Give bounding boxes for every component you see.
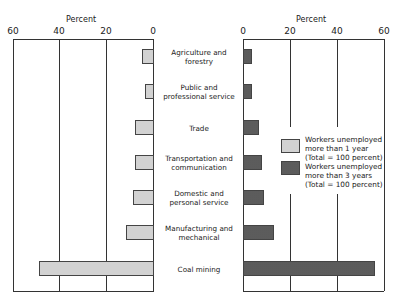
category-label-coal-mining: Coal mining (158, 265, 240, 274)
left-gridline-20 (106, 39, 107, 291)
bar-3yr-trade (243, 120, 259, 135)
bar-1yr-coal-mining (39, 261, 154, 276)
category-label-line: Coal mining (158, 265, 240, 274)
right-tick-0: 0 (240, 26, 246, 36)
right-tick-20: 20 (284, 26, 295, 36)
category-label-agriculture: Agriculture and forestry (158, 48, 240, 66)
legend-line: Workers unemployed (305, 162, 383, 171)
bar-1yr-public-and-professional-service (145, 84, 154, 99)
category-label-line: Public and (158, 83, 240, 92)
bar-1yr-trade (135, 120, 154, 135)
category-label-line: personal service (158, 198, 240, 207)
category-label-trade: Trade (158, 124, 240, 133)
category-label-public-service: Public and professional service (158, 83, 240, 101)
category-label-line: Agriculture and (158, 48, 240, 57)
category-label-manufacturing: Manufacturing and mechanical (158, 224, 240, 242)
legend-label-3yr: Workers unemployed more than 3 years (To… (305, 162, 383, 189)
right-tick-40: 40 (331, 26, 342, 36)
legend-swatch-1yr (281, 139, 300, 153)
legend-line: more than 1 year (305, 144, 383, 153)
left-tick-0: 0 (150, 26, 156, 36)
right-tick-60: 60 (378, 26, 389, 36)
legend-line: (Total = 100 percent) (305, 180, 383, 189)
bar-3yr-transportation-and-communication (243, 155, 262, 170)
bar-3yr-coal-mining (243, 261, 375, 276)
category-label-line: Trade (158, 124, 240, 133)
left-tick-20: 20 (100, 26, 111, 36)
right-gridline-60 (384, 39, 385, 291)
bar-3yr-agriculture-and-forestry (243, 49, 252, 64)
category-label-line: communication (158, 163, 240, 172)
legend-swatch-3yr (281, 161, 300, 175)
left-axis-title: Percent (66, 15, 96, 24)
bar-1yr-transportation-and-communication (135, 155, 154, 170)
category-label-transportation: Transportation and communication (158, 154, 240, 172)
left-tick-40: 40 (53, 26, 64, 36)
category-label-line: mechanical (158, 233, 240, 242)
bar-1yr-manufacturing-and-mechanical (126, 225, 154, 240)
legend-label-1yr: Workers unemployed more than 1 year (Tot… (305, 135, 383, 162)
left-plot-area (13, 39, 154, 292)
bar-3yr-domestic-and-personal-service (243, 190, 264, 205)
category-label-line: professional service (158, 92, 240, 101)
bar-1yr-agriculture-and-forestry (142, 49, 154, 64)
legend-line: (Total = 100 percent) (305, 153, 383, 162)
category-label-line: Domestic and (158, 189, 240, 198)
category-label-line: forestry (158, 57, 240, 66)
left-tick-60: 60 (7, 26, 18, 36)
left-gridline-40 (59, 39, 60, 291)
category-label-line: Transportation and (158, 154, 240, 163)
right-axis-title: Percent (296, 15, 326, 24)
bar-3yr-public-and-professional-service (243, 84, 252, 99)
legend-line: Workers unemployed (305, 135, 383, 144)
left-gridline-60 (13, 39, 14, 291)
bar-1yr-domestic-and-personal-service (133, 190, 154, 205)
legend-line: more than 3 years (305, 171, 383, 180)
category-label-domestic-service: Domestic and personal service (158, 189, 240, 207)
bar-3yr-manufacturing-and-mechanical (243, 225, 274, 240)
category-label-line: Manufacturing and (158, 224, 240, 233)
